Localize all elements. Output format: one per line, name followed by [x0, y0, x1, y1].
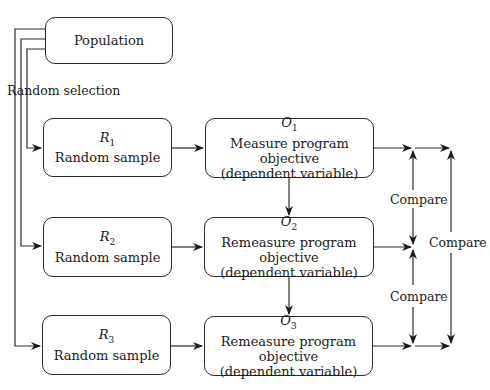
observation-1-box: O1 Measure program objective (dependent … — [205, 118, 374, 178]
observation-1-line2: (dependent variable) — [221, 166, 359, 181]
observation-3-line1: Remeasure program objective — [205, 334, 372, 364]
sample-2-symbol: R2 — [100, 229, 116, 250]
random-selection-label: Random selection — [6, 83, 121, 98]
sample-3-symbol: R3 — [99, 327, 115, 348]
observation-2-symbol: O2 — [281, 214, 297, 235]
observation-3-line2: (dependent variable) — [220, 364, 358, 379]
random-sample-2-box: R2 Random sample — [43, 217, 172, 277]
observation-1-line1: Measure program objective — [206, 136, 373, 166]
sample-1-label: Random sample — [55, 150, 161, 165]
random-sample-1-box: R1 Random sample — [43, 118, 172, 177]
sample-2-label: Random sample — [55, 250, 161, 265]
population-box: Population — [45, 17, 173, 64]
compare-o1-o2-label: Compare — [389, 192, 449, 207]
population-label: Population — [74, 33, 144, 48]
compare-o1-o3-label: Compare — [428, 235, 488, 250]
compare-o2-o3-label: Compare — [389, 289, 449, 304]
observation-3-symbol: O3 — [280, 313, 296, 334]
observation-2-line2: (dependent variable) — [220, 265, 358, 280]
sample-3-label: Random sample — [54, 348, 160, 363]
sample-1-symbol: R1 — [100, 130, 116, 151]
observation-2-line1: Remeasure program objective — [205, 235, 373, 265]
observation-3-box: O3 Remeasure program objective (dependen… — [204, 316, 373, 376]
observation-2-box: O2 Remeasure program objective (dependen… — [204, 217, 374, 277]
random-sample-3-box: R3 Random sample — [42, 315, 171, 375]
observation-1-symbol: O1 — [281, 115, 297, 136]
